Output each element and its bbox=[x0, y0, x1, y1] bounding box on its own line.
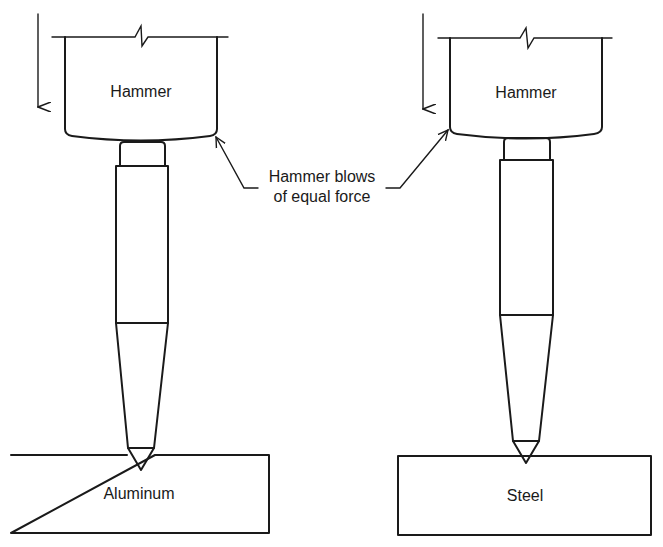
punch-taper bbox=[116, 323, 168, 448]
hammer-label-left: Hammer bbox=[110, 84, 171, 100]
punch-tip bbox=[513, 441, 539, 463]
callout-line-1: Hammer blows bbox=[269, 167, 376, 187]
material-label-aluminum: Aluminum bbox=[103, 486, 174, 502]
hammer-label-right: Hammer bbox=[495, 85, 556, 101]
leader-line-left bbox=[216, 137, 258, 188]
material-label-steel: Steel bbox=[507, 488, 543, 504]
diagram-canvas bbox=[0, 0, 663, 547]
hammer-break-line bbox=[438, 28, 612, 48]
callout-text: Hammer blows of equal force bbox=[269, 167, 376, 207]
leader-line-right bbox=[386, 130, 448, 188]
callout-line-2: of equal force bbox=[269, 187, 376, 207]
hammer-break-line bbox=[52, 26, 228, 46]
punch-neck bbox=[120, 142, 165, 166]
punch-neck bbox=[504, 138, 550, 160]
punch-shank bbox=[116, 166, 168, 323]
punch-shank bbox=[500, 160, 553, 315]
punch-taper bbox=[500, 315, 553, 441]
